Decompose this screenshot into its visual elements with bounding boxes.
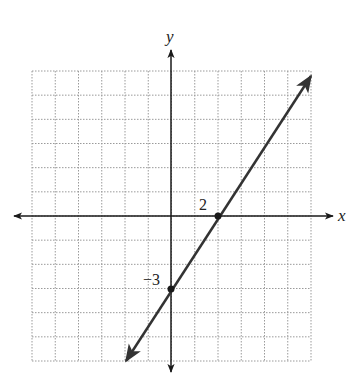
graph-svg: x y 2 −3 xyxy=(0,0,352,375)
y-intercept-label: −3 xyxy=(143,271,160,288)
coordinate-plane-figure: x y 2 −3 xyxy=(0,0,352,375)
x-axis-label: x xyxy=(337,206,346,225)
x-intercept-point xyxy=(215,213,222,220)
x-intercept-label: 2 xyxy=(199,196,207,213)
y-intercept-point xyxy=(168,286,175,293)
y-axis-label: y xyxy=(164,27,174,46)
